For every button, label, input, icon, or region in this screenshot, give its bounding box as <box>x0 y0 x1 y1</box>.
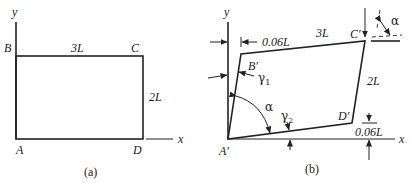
corner-label-a: A <box>15 143 24 157</box>
alpha-corner-label: α <box>391 14 399 28</box>
axis-label-x-b: x <box>398 132 405 146</box>
axis-label-x-a: x <box>177 132 184 146</box>
panel-a: y x B C A D 3L 2L (a) <box>4 5 184 179</box>
panel-b: 0.06L γ1 α γ2 0.06L α y x B′ C′ D′ A′ 3L… <box>208 5 405 176</box>
corner-label-d: D <box>132 143 142 157</box>
rectangle-abcd <box>16 56 143 139</box>
corner-label-b: B <box>4 41 12 55</box>
axis-label-y-a: y <box>11 5 18 19</box>
corner-label-b-prime: B′ <box>248 59 258 73</box>
corner-label-d-prime: D′ <box>337 109 350 123</box>
dimension-label-top-a: 3L <box>70 41 84 55</box>
dimension-label-right-a: 2L <box>149 90 162 104</box>
dimension-label-top-b: 3L <box>315 26 329 40</box>
reference-line-dashed <box>372 35 402 37</box>
corner-label-a-prime: A′ <box>218 144 229 158</box>
offset-label-vertical: 0.06L <box>355 125 383 139</box>
alpha-corner-arrow <box>381 22 390 35</box>
gamma1-label: γ1 <box>258 71 270 87</box>
gamma2-label: γ2 <box>281 109 293 125</box>
deformed-shape <box>228 41 365 139</box>
corner-label-c-prime: C′ <box>350 27 361 41</box>
corner-label-c: C <box>131 41 140 55</box>
gamma1-arrow-left <box>208 75 227 78</box>
reference-line-slanted <box>377 10 380 28</box>
caption-b: (b) <box>305 162 319 176</box>
deformation-diagram: y x B C A D 3L 2L (a) 0.06L γ1 α γ2 <box>0 0 411 183</box>
offset-label-horizontal: 0.06L <box>262 35 290 49</box>
axis-label-y-b: y <box>223 5 230 19</box>
caption-a: (a) <box>84 165 97 179</box>
dimension-label-right-b: 2L <box>367 74 380 88</box>
alpha-label: α <box>265 100 273 114</box>
